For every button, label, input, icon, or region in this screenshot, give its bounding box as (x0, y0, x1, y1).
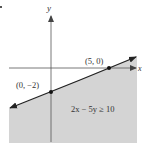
x-axis-label: x (137, 64, 142, 73)
point-5-0 (107, 66, 111, 70)
inequality-label: 2x − 5y ≥ 10 (71, 104, 114, 114)
y-axis-label: y (46, 3, 51, 13)
point-label-5-0: (5, 0) (85, 56, 104, 66)
point-0-neg2 (49, 90, 53, 94)
corner-mark (0, 6, 2, 8)
point-label-0-neg2: (0, −2) (16, 80, 39, 90)
inequality-graph: y x (5, 0) (0, −2) 2x − 5y ≥ 10 (0, 0, 143, 148)
shaded-region (9, 56, 137, 143)
